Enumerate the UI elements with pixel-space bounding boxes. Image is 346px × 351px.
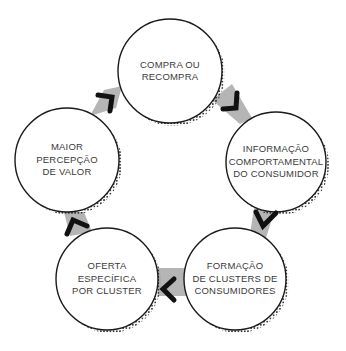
connector-percepcao-compra (90, 86, 122, 116)
node-circle-oferta (56, 228, 158, 330)
node-circle-informacao (226, 112, 326, 212)
node-circle-percepcao (15, 108, 119, 212)
node-circle-formacao (184, 228, 286, 330)
node-circle-compra (118, 19, 222, 123)
cycle-diagram (0, 0, 346, 351)
